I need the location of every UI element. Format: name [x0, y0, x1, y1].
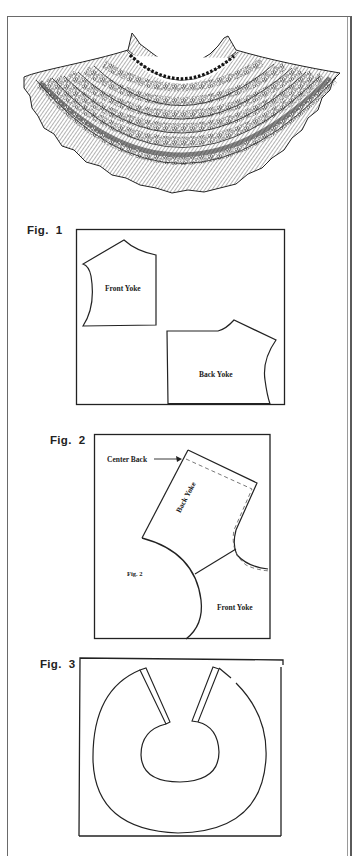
fig-3-diagram [0, 0, 358, 839]
